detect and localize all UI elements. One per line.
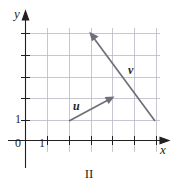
- axes: [8, 11, 169, 168]
- vector-u-label: u: [73, 100, 80, 112]
- vector-v-label: v: [128, 64, 133, 76]
- grid-lines: [25, 28, 160, 152]
- vector-v-shaft: [93, 37, 155, 121]
- coordinate-plane-svg: [0, 0, 178, 188]
- y-axis-label: y: [14, 7, 20, 20]
- x-axis-label: x: [160, 143, 166, 156]
- axis-ticks: [21, 33, 156, 145]
- figure-caption: II: [0, 167, 178, 180]
- y-axis-arrowhead: [22, 11, 28, 20]
- x-tick-label-1: 1: [39, 137, 45, 149]
- origin-label: 0: [15, 137, 21, 149]
- vector-diagram-figure: y x 0 1 1 u v II: [0, 0, 178, 188]
- y-tick-label-1: 1: [15, 113, 21, 125]
